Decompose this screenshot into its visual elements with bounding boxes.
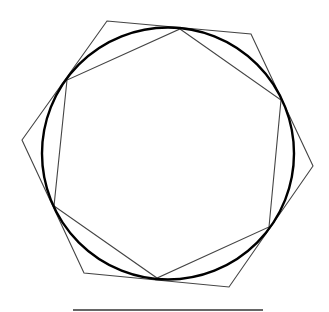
circle [42, 28, 294, 280]
circumscribed-hexagon [22, 21, 313, 287]
diagram-canvas [0, 0, 329, 312]
inscribed-hexagon [54, 29, 281, 278]
geometry-figure [0, 0, 329, 312]
